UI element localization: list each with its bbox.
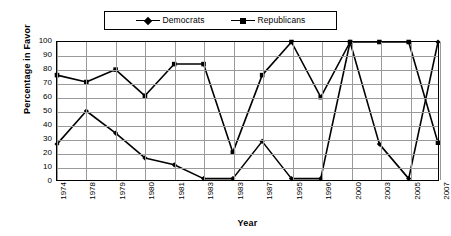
y-tick-label: 80 bbox=[30, 65, 52, 73]
gridline-vertical bbox=[293, 42, 294, 180]
gridline-vertical bbox=[57, 42, 58, 180]
y-tick-label: 30 bbox=[30, 135, 52, 143]
x-axis-tick-labels: 1974197819791980198119831983198719951996… bbox=[56, 182, 439, 218]
gridline-vertical bbox=[86, 42, 87, 180]
y-tick-label: 90 bbox=[30, 51, 52, 59]
square-marker-icon bbox=[240, 18, 246, 24]
y-tick-label: 100 bbox=[30, 37, 52, 45]
y-tick-label: 20 bbox=[30, 149, 52, 157]
x-tick-label: 1983 bbox=[207, 182, 215, 200]
x-tick-label: 1980 bbox=[148, 182, 156, 200]
republicans-line-swatch bbox=[231, 16, 255, 25]
legend-entry-republicans: Republicans bbox=[231, 16, 306, 25]
y-tick-label: 10 bbox=[30, 163, 52, 171]
x-tick-label: 1995 bbox=[296, 182, 304, 200]
y-tick-label: 50 bbox=[30, 107, 52, 115]
y-tick-label: 0 bbox=[30, 177, 52, 185]
x-tick-label: 1987 bbox=[266, 182, 274, 200]
x-tick-label: 1983 bbox=[237, 182, 245, 200]
y-axis-tick-labels: 1009080706050403020100 bbox=[28, 0, 52, 236]
y-tick-label: 40 bbox=[30, 121, 52, 129]
x-tick-label: 2000 bbox=[355, 182, 363, 200]
x-tick-label: 1996 bbox=[325, 182, 333, 200]
gridline-vertical bbox=[204, 42, 205, 180]
gridline-vertical bbox=[381, 42, 382, 180]
legend-entry-democrats: Democrats bbox=[136, 16, 205, 25]
x-tick-label: 2003 bbox=[384, 182, 392, 200]
legend-label-republicans: Republicans bbox=[258, 16, 306, 25]
gridline-vertical bbox=[175, 42, 176, 180]
gridline-vertical bbox=[411, 42, 412, 180]
x-tick-label: 1981 bbox=[178, 182, 186, 200]
legend-label-democrats: Democrats bbox=[163, 16, 205, 25]
x-tick-label: 1979 bbox=[119, 182, 127, 200]
gridline-vertical bbox=[263, 42, 264, 180]
plot-area bbox=[56, 41, 439, 181]
x-tick-label: 2005 bbox=[414, 182, 422, 200]
gridline-vertical bbox=[322, 42, 323, 180]
gridline-vertical bbox=[234, 42, 235, 180]
diamond-marker-icon bbox=[143, 16, 151, 24]
chart-legend: Democrats Republicans bbox=[104, 11, 337, 30]
gridline-vertical bbox=[145, 42, 146, 180]
democrats-line-swatch bbox=[136, 16, 160, 25]
gridline-vertical bbox=[440, 42, 441, 180]
gridline-vertical bbox=[116, 42, 117, 180]
y-tick-label: 60 bbox=[30, 93, 52, 101]
x-tick-label: 2007 bbox=[443, 182, 451, 200]
y-tick-label: 70 bbox=[30, 79, 52, 87]
x-tick-label: 1974 bbox=[60, 182, 68, 200]
gridline-vertical bbox=[352, 42, 353, 180]
x-axis-title: Year bbox=[56, 218, 439, 228]
x-tick-label: 1978 bbox=[89, 182, 97, 200]
